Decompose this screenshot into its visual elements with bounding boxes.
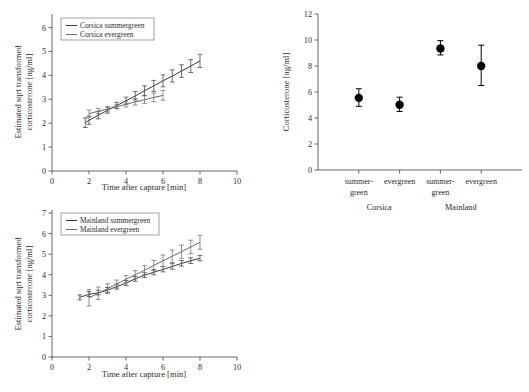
y-tick-label: 0 — [42, 167, 46, 176]
series-group — [83, 54, 202, 127]
figure-root: 0123456 0246810 Corsica summergreen Cors… — [0, 0, 529, 392]
y-axis-title: Corticosterone [ng/ml] — [281, 53, 291, 132]
y-tick-label: 5 — [42, 250, 46, 259]
y-tick-label: 10 — [304, 36, 312, 45]
legend-label-0: Mainland summergreen — [80, 216, 151, 225]
y-tick-label: 2 — [42, 312, 46, 321]
group-label: Mainland — [445, 203, 476, 212]
y-tick-label: 4 — [42, 271, 46, 280]
x-tick-label: 2 — [87, 177, 91, 186]
y-tick-label: 6 — [42, 24, 46, 33]
group-label: Corsica — [367, 203, 392, 212]
y-tick-label: 6 — [42, 230, 46, 239]
category-label: evergreen — [384, 177, 415, 186]
series-group — [77, 235, 202, 306]
y-tick-label: 6 — [308, 88, 312, 97]
points-group — [355, 41, 486, 112]
legend-label-1: Corsica evergreen — [80, 30, 134, 39]
y-axis-title-line2: corticosterone [ng/ml] — [24, 54, 34, 131]
y-ticks: 024681012 — [304, 10, 318, 175]
x-axis — [318, 170, 522, 174]
y-axis: 024681012 — [304, 10, 318, 175]
y-tick-label: 3 — [42, 291, 46, 300]
y-tick-label: 4 — [308, 114, 312, 123]
corsica-timecourse-svg: 0123456 0246810 Corsica summergreen Cors… — [0, 0, 270, 196]
y-axis: 01234567 — [42, 209, 52, 362]
y-tick-label: 1 — [42, 332, 46, 341]
legend-label-0: Corsica summergreen — [80, 21, 145, 30]
x-tick-label: 10 — [233, 363, 241, 372]
data-point — [477, 62, 485, 70]
data-point — [355, 94, 363, 102]
legend-label-1: Mainland evergreen — [80, 225, 139, 234]
y-tick-label: 2 — [42, 119, 46, 128]
category-label: summer- — [426, 177, 455, 186]
y-tick-label: 3 — [42, 95, 46, 104]
x-tick-label: 8 — [198, 363, 202, 372]
y-ticks: 01234567 — [42, 209, 52, 362]
category-label: evergreen — [466, 177, 497, 186]
y-axis-title-line1: Estimated sqrt transformed — [13, 237, 23, 331]
y-tick-label: 0 — [308, 166, 312, 175]
data-point — [436, 44, 444, 52]
x-tick-label: 10 — [233, 177, 241, 186]
x-axis-title: Time after capture [min] — [102, 369, 187, 379]
y-tick-label: 2 — [308, 140, 312, 149]
x-tick-label: 8 — [198, 177, 202, 186]
y-axis-title-line1: Estimated sqrt transformed — [13, 45, 23, 139]
legend: Corsica summergreen Corsica evergreen — [61, 18, 154, 40]
panel-baseline-corticosterone: 024681012 summer-greenevergreensummer-gr… — [272, 0, 529, 215]
category-label: summer- — [345, 177, 374, 186]
x-ticks — [359, 170, 481, 174]
y-ticks: 0123456 — [42, 24, 52, 176]
panel-corsica-timecourse: 0123456 0246810 Corsica summergreen Cors… — [0, 0, 270, 196]
category-labels: summer-greenevergreensummer-greenevergre… — [345, 177, 497, 197]
x-tick-label: 2 — [87, 363, 91, 372]
y-tick-label: 12 — [304, 10, 312, 19]
y-tick-label: 8 — [308, 62, 312, 71]
y-tick-label: 7 — [42, 209, 46, 218]
x-tick-label: 0 — [50, 363, 54, 372]
series-line — [80, 258, 200, 297]
y-tick-label: 1 — [42, 143, 46, 152]
y-tick-label: 5 — [42, 47, 46, 56]
panel-mainland-timecourse: 01234567 0246810 Mainland summergreen Ma… — [0, 196, 270, 392]
y-axis: 0123456 — [42, 14, 52, 176]
baseline-corticosterone-svg: 024681012 summer-greenevergreensummer-gr… — [272, 0, 529, 215]
y-tick-label: 4 — [42, 71, 46, 80]
category-label-line2: green — [350, 188, 368, 197]
data-point — [395, 101, 403, 109]
x-axis-title: Time after capture [min] — [102, 182, 187, 192]
group-labels: CorsicaMainland — [367, 203, 477, 212]
x-tick-label: 0 — [50, 177, 54, 186]
y-axis-title-line2: corticosterone [ng/ml] — [24, 246, 34, 323]
y-tick-label: 0 — [42, 353, 46, 362]
series-line — [85, 61, 200, 123]
category-label-line2: green — [432, 188, 450, 197]
mainland-timecourse-svg: 01234567 0246810 Mainland summergreen Ma… — [0, 196, 270, 392]
legend: Mainland summergreen Mainland evergreen — [61, 213, 159, 235]
